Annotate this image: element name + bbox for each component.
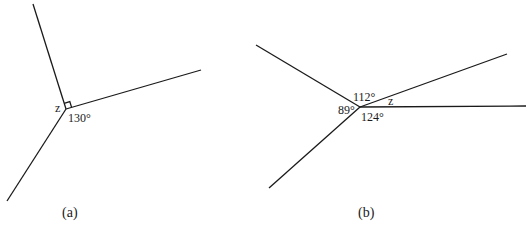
ray-a-bottom-left (7, 109, 66, 201)
caption-a: (a) (62, 205, 78, 221)
ray-b-lower-left (269, 107, 360, 188)
ray-b-right (360, 106, 526, 107)
angles-diagram: z 130° (a) 112° 89° 124° z (b) (0, 0, 532, 227)
label-b-124: 124° (361, 110, 384, 124)
label-a-130: 130° (68, 111, 91, 125)
ray-a-top (33, 4, 66, 109)
ray-b-upper-right (360, 54, 507, 107)
caption-b: (b) (358, 205, 375, 221)
label-b-z: z (388, 94, 393, 108)
figure-b: 112° 89° 124° z (b) (256, 45, 526, 221)
figure-a: z 130° (a) (7, 4, 201, 221)
label-a-z: z (55, 101, 60, 115)
label-b-89: 89° (338, 103, 355, 117)
ray-b-upper-left (256, 45, 360, 107)
label-b-112: 112° (353, 90, 376, 104)
ray-a-right (66, 70, 201, 109)
